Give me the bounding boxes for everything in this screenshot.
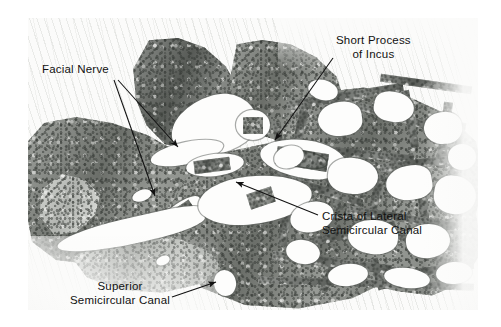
leader-crista-of-lateral-semicircular-canal <box>236 182 318 215</box>
label-facial-nerve-line-1: Facial Nerve <box>42 62 109 76</box>
label-short-process-of-incus: Short Process of Incus <box>336 33 411 61</box>
label-crista-line-2: Semicircular Canal <box>322 223 422 237</box>
label-short-process-of-incus-line-2: of Incus <box>336 47 411 61</box>
figure-canvas: Facial Nerve Short Process of Incus Cris… <box>0 0 501 327</box>
annotation-layer: Facial Nerve Short Process of Incus Cris… <box>0 0 501 327</box>
label-superior-semicircular-canal: Superior Semicircular Canal <box>61 279 179 307</box>
leader-facial-nerve-a <box>118 80 178 147</box>
leader-facial-nerve-b <box>114 80 155 196</box>
leader-lines <box>0 0 501 327</box>
label-short-process-of-incus-line-1: Short Process <box>336 33 411 47</box>
label-crista-line-1: Crista of Lateral <box>322 209 422 223</box>
label-superior-line-1: Superior <box>61 279 179 293</box>
leader-short-process-of-incus <box>275 58 333 140</box>
label-superior-line-2: Semicircular Canal <box>61 293 179 307</box>
label-crista-of-lateral-semicircular-canal: Crista of Lateral Semicircular Canal <box>322 209 422 237</box>
label-facial-nerve: Facial Nerve <box>42 62 109 76</box>
